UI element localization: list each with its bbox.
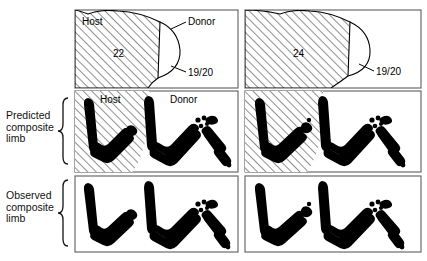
panel-mid-left: Host Donor: [75, 91, 238, 172]
panel-top-right: 24 19/20: [245, 10, 421, 88]
row-label-predicted: Predicted composite limb: [6, 110, 64, 145]
figure-root: Predicted composite limb Observed compos…: [0, 0, 427, 261]
host-stage-label: 22: [113, 48, 125, 59]
donor-label: Donor: [188, 16, 216, 27]
graft-stage-label: 19/20: [188, 67, 213, 78]
limb-donor-label: Donor: [170, 94, 198, 105]
row-label-observed: Observed composite limb: [6, 190, 64, 225]
limb-host-label: Host: [100, 94, 121, 105]
panel-top-left: Host 22 Donor 19/20: [75, 10, 238, 88]
host-label: Host: [82, 16, 103, 27]
panel-bottom-left: [75, 176, 238, 252]
panel-bottom-right: [245, 176, 421, 252]
figure-canvas: Host 22 Donor 19/20 24 19/20 Host: [0, 0, 427, 261]
panel-mid-right: [245, 91, 421, 172]
host-stage-label: 24: [293, 48, 305, 59]
graft-stage-label: 19/20: [376, 66, 401, 77]
